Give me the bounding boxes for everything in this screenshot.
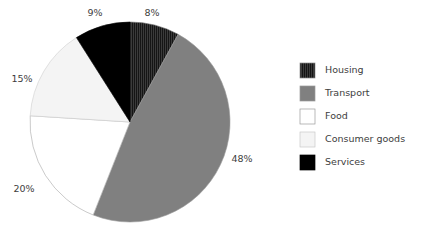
legend-label-services: Services <box>325 156 365 167</box>
legend-swatch-services <box>300 155 315 170</box>
pie-slices <box>30 22 230 222</box>
pie-label-consumer-goods: 15% <box>11 73 32 84</box>
pie-label-transport: 48% <box>231 153 252 164</box>
legend-swatch-consumer-goods <box>300 132 315 147</box>
pie-label-services: 9% <box>87 7 102 18</box>
chart-svg: 8% 48% 20% 15% 9% Housing Transport Food… <box>0 0 425 236</box>
legend-label-consumer-goods: Consumer goods <box>325 133 405 144</box>
legend-label-housing: Housing <box>325 64 364 75</box>
legend-label-transport: Transport <box>324 87 370 98</box>
legend-swatch-transport <box>300 86 315 101</box>
legend-swatch-food <box>300 109 315 124</box>
legend-swatch-housing <box>300 63 315 78</box>
pie-label-housing: 8% <box>144 7 159 18</box>
pie-chart-figure: 8% 48% 20% 15% 9% Housing Transport Food… <box>0 0 425 236</box>
legend-label-food: Food <box>325 110 348 121</box>
pie-label-food: 20% <box>13 183 34 194</box>
